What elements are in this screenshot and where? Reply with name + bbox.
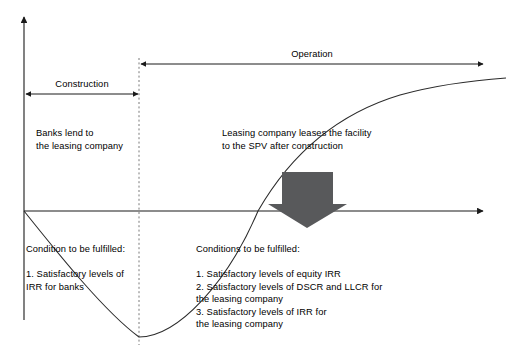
- leasing-company-annotation: Leasing company leases the facility to t…: [222, 127, 372, 152]
- operation-phase-label: Operation: [139, 48, 485, 61]
- conditions-right-heading: Conditions to be fulfilled:: [196, 243, 300, 256]
- leasing-transfer-block-arrow: [268, 172, 347, 228]
- banks-lend-annotation: Banks lend to the leasing company: [36, 127, 123, 152]
- diagram-canvas: Construction Operation Banks lend to the…: [0, 0, 514, 358]
- conditions-right-items: 1. Satisfactory levels of equity IRR 2. …: [196, 268, 382, 331]
- construction-phase-label: Construction: [25, 78, 139, 91]
- condition-left-items: 1. Satisfactory levels of IRR for banks: [26, 268, 124, 293]
- condition-left-heading: Condition to be fulfilled:: [26, 243, 125, 256]
